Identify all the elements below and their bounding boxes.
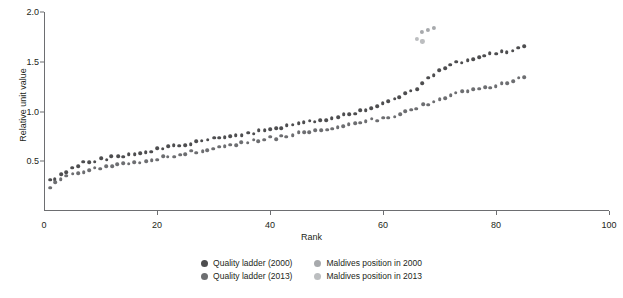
point-country-label xyxy=(213,136,216,137)
data-point xyxy=(274,127,278,131)
legend-item[interactable]: Maldives position in 2013 xyxy=(314,271,421,281)
data-point xyxy=(488,51,492,55)
data-point xyxy=(234,143,238,147)
data-point xyxy=(461,89,465,93)
point-country-label xyxy=(455,60,458,61)
data-point xyxy=(494,84,498,88)
legend-item[interactable]: Quality ladder (2000) xyxy=(201,258,292,268)
point-country-label xyxy=(150,150,153,151)
data-point xyxy=(471,57,475,61)
data-point xyxy=(127,153,131,157)
data-point xyxy=(466,89,470,93)
legend-marker-icon xyxy=(314,273,321,280)
data-point xyxy=(263,129,267,133)
point-country-label xyxy=(275,137,278,138)
data-point xyxy=(319,118,323,122)
point-country-label xyxy=(438,97,441,98)
data-point xyxy=(353,122,357,126)
data-point xyxy=(223,136,227,140)
point-country-label xyxy=(302,120,305,121)
data-point xyxy=(87,161,91,165)
data-point xyxy=(375,104,379,108)
point-country-label xyxy=(342,112,345,113)
point-country-label xyxy=(263,138,266,139)
point-country-label xyxy=(133,152,136,153)
point-country-label xyxy=(49,178,52,179)
point-country-label xyxy=(444,96,447,97)
data-point xyxy=(183,143,187,147)
data-point xyxy=(438,68,442,72)
point-country-label xyxy=(382,116,385,117)
data-point xyxy=(240,133,244,137)
y-tick-label: 0.5 xyxy=(26,156,39,166)
point-country-label xyxy=(206,138,209,139)
data-point xyxy=(76,172,80,176)
point-country-label xyxy=(246,141,249,142)
point-country-label xyxy=(489,86,492,87)
point-country-label xyxy=(387,99,390,100)
plot-area: 0.51.01.52.0 020406080100 xyxy=(44,12,609,211)
legend-label: Maldives position in 2000 xyxy=(326,258,421,268)
point-country-label xyxy=(444,66,447,67)
point-country-label xyxy=(105,158,108,159)
point-country-label xyxy=(331,127,334,128)
data-point xyxy=(194,140,198,144)
point-country-label xyxy=(449,63,452,64)
data-point xyxy=(48,178,52,182)
data-point xyxy=(324,119,328,123)
point-country-label xyxy=(427,76,430,77)
data-point xyxy=(308,119,312,123)
point-country-label xyxy=(308,119,311,120)
point-country-label xyxy=(110,154,113,155)
point-country-label xyxy=(511,49,514,50)
point-country-label xyxy=(161,147,164,148)
point-country-label xyxy=(393,115,396,116)
data-point xyxy=(240,140,244,144)
data-point xyxy=(398,96,402,100)
data-point xyxy=(415,87,419,91)
data-point xyxy=(59,173,63,177)
data-point xyxy=(420,30,424,34)
data-point xyxy=(443,96,447,100)
y-tick-label: 2.0 xyxy=(26,7,39,17)
data-point xyxy=(426,28,430,32)
point-country-label xyxy=(218,136,221,137)
point-country-label xyxy=(122,155,125,156)
point-country-label xyxy=(71,172,74,173)
data-point xyxy=(364,109,368,113)
data-point xyxy=(347,123,351,127)
data-point xyxy=(336,116,340,120)
data-point xyxy=(432,73,436,77)
clipped-title xyxy=(236,0,436,6)
x-tick-label: 20 xyxy=(152,220,162,230)
data-point xyxy=(116,162,120,166)
point-country-label xyxy=(326,128,329,129)
data-point xyxy=(76,164,80,168)
legend-item[interactable]: Maldives position in 2000 xyxy=(314,258,421,268)
data-point xyxy=(133,160,137,164)
x-tick-mark xyxy=(609,211,610,215)
point-country-label xyxy=(376,119,379,120)
y-tick-label: 1.0 xyxy=(26,107,39,117)
point-country-label xyxy=(138,161,141,162)
point-country-label xyxy=(247,131,250,132)
point-country-label xyxy=(517,76,520,77)
point-country-label xyxy=(449,93,452,94)
x-tick-label: 80 xyxy=(491,220,501,230)
data-point xyxy=(387,116,391,120)
data-point xyxy=(297,131,301,135)
data-point xyxy=(370,117,374,121)
data-point xyxy=(420,82,424,86)
data-point xyxy=(347,113,351,117)
point-country-label xyxy=(82,160,85,161)
data-point xyxy=(420,39,424,43)
data-point xyxy=(189,142,193,146)
data-point xyxy=(302,130,306,134)
data-point xyxy=(291,134,295,138)
data-point xyxy=(471,87,475,91)
point-country-label xyxy=(166,155,169,156)
data-point xyxy=(421,102,425,106)
legend-marker-icon xyxy=(314,260,321,267)
legend-marker-icon xyxy=(201,260,208,267)
legend-item[interactable]: Quality ladder (2013) xyxy=(201,271,292,281)
